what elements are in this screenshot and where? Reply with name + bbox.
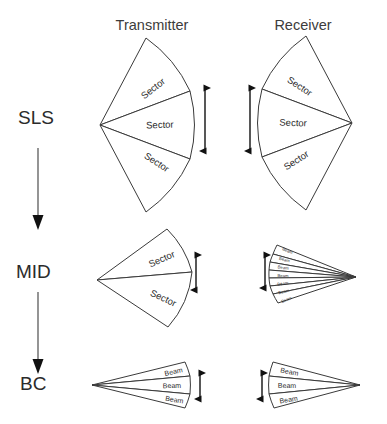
- beam-label-bc-tx-2: Beam: [163, 382, 182, 389]
- cell-mid-transmitter: Sector Sector: [97, 229, 196, 327]
- flow-arrow-mid-to-bc: [33, 292, 44, 374]
- cell-sls-receiver: Sector Sector Sector: [250, 36, 352, 210]
- column-header-transmitter: Transmitter: [116, 17, 189, 33]
- flow-arrow-sls-to-mid: [33, 148, 44, 230]
- stage-labels: SLS MID BC: [16, 107, 54, 394]
- cell-sls-transmitter: Sector Sector Sector: [100, 38, 205, 212]
- sector-label-sls-tx-2: Sector: [146, 119, 174, 131]
- cell-bc-transmitter: Beam Beam Beam: [92, 362, 200, 408]
- column-header-receiver: Receiver: [274, 17, 331, 33]
- diagram-canvas: Transmitter Receiver SLS MID BC: [0, 0, 387, 424]
- beam-label-bc-rx-2: Beam: [278, 382, 297, 389]
- beamforming-training-diagram: Transmitter Receiver SLS MID BC: [0, 0, 387, 424]
- stage-label-mid: MID: [16, 261, 51, 282]
- beam-label-mid-rx-4: Beam: [278, 273, 289, 278]
- sector-label-sls-rx-2: Sector: [279, 117, 307, 129]
- stage-label-sls: SLS: [18, 107, 54, 128]
- column-headers: Transmitter Receiver: [116, 17, 332, 33]
- sector-wedge-mid-tx-1: [97, 229, 192, 280]
- stage-label-bc: BC: [20, 373, 46, 394]
- cell-bc-receiver: Beam Beam Beam: [262, 362, 360, 408]
- cell-mid-receiver: Beam Beam Beam Beam Beam Beam Beam: [265, 245, 356, 304]
